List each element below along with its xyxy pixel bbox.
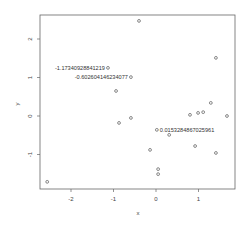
plot-frame (40, 15, 235, 189)
x-axis-label: x (137, 210, 140, 216)
point-label: -1.17340928841219 (55, 65, 105, 71)
data-point (168, 133, 171, 136)
data-point (157, 173, 160, 176)
x-tick-label: -1 (111, 196, 117, 202)
point-labels-layer: -1.17340928841219-0.6026041462340770.015… (55, 65, 214, 133)
data-point (155, 128, 158, 131)
y-tick-label: 2 (27, 37, 33, 41)
data-point (118, 122, 121, 125)
data-point (130, 117, 133, 120)
data-point (209, 102, 212, 105)
scatter-chart: -2-101 -1012 -1.17340928841219-0.6026041… (0, 0, 245, 228)
x-tick-label: 1 (197, 196, 201, 202)
data-point (46, 180, 49, 183)
y-tick-label: -1 (27, 151, 33, 157)
data-point (194, 145, 197, 148)
y-axis-label: y (14, 103, 20, 106)
data-point (130, 76, 133, 79)
y-tick-label: 1 (27, 75, 33, 79)
data-point (107, 66, 110, 69)
x-axis: -2-101 (68, 189, 201, 202)
x-tick-label: 0 (154, 196, 158, 202)
y-tick-label: 0 (27, 114, 33, 118)
data-point (157, 168, 160, 171)
data-point (215, 56, 218, 59)
data-point (226, 115, 229, 118)
data-point (215, 152, 218, 155)
data-point (197, 112, 200, 115)
data-point (189, 113, 192, 116)
point-label: 0.0153284867025961 (160, 127, 214, 133)
x-tick-label: -2 (68, 196, 74, 202)
y-axis: -1012 (27, 37, 40, 158)
point-label: -0.602604146234077 (75, 74, 128, 80)
points-layer (46, 20, 229, 184)
data-point (115, 90, 118, 93)
data-point (149, 148, 152, 151)
data-point (138, 20, 141, 23)
data-point (202, 111, 205, 114)
